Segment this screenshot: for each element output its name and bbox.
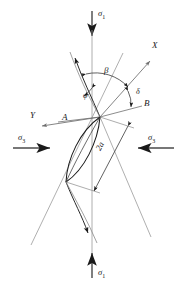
point-a-label: A	[62, 113, 68, 122]
phi-angle-label: φ	[83, 92, 87, 100]
dimension-2a-group	[66, 117, 134, 193]
b-ray-group	[100, 106, 142, 117]
dim-extension-upper	[100, 117, 134, 128]
flaw-plane-secondary	[100, 117, 151, 237]
y-axis-label: Y	[30, 111, 35, 120]
delta-angle-label: δ	[136, 88, 140, 96]
wing-crack-upper	[75, 58, 100, 117]
lens-crack-mid-arc	[66, 117, 100, 182]
dim-measure-line	[94, 126, 128, 191]
b-ray-line	[100, 106, 142, 117]
sigma3-right-label: σ3	[148, 133, 155, 144]
sigma3-left-label: σ3	[18, 133, 25, 144]
sigma1-top-label: σ1	[98, 9, 105, 20]
point-b-label: B	[144, 99, 150, 108]
figure-canvas: σ1 σ1 σ3 σ3 X Y β φ δ A B 2a	[0, 0, 187, 288]
x-axis-label: X	[152, 41, 158, 50]
lens-crack-group	[66, 117, 100, 182]
sigma1-bottom-label: σ1	[98, 268, 105, 279]
flaw-plane-main	[31, 53, 123, 245]
delta-angle-arc	[128, 91, 131, 107]
beta-angle-label: β	[104, 66, 108, 75]
flaw-plane-lines	[31, 53, 151, 245]
wing-crack-lower	[66, 182, 88, 233]
